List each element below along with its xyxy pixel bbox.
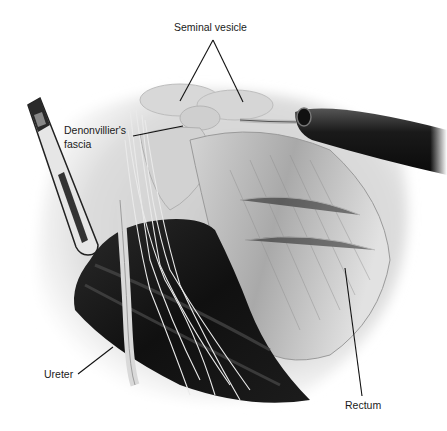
label-denonvilliers-fascia-line2: fascia xyxy=(64,138,92,150)
label-seminal-vesicle: Seminal vesicle xyxy=(174,21,247,33)
label-rectum: Rectum xyxy=(345,399,381,411)
figure: Seminal vesicle Denonvillier's fascia Ur… xyxy=(0,0,447,431)
illustration: Seminal vesicle Denonvillier's fascia Ur… xyxy=(0,0,447,431)
label-ureter: Ureter xyxy=(44,368,74,380)
label-denonvilliers-fascia-line1: Denonvillier's xyxy=(64,124,126,136)
